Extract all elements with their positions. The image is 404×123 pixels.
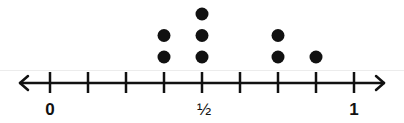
tick-label-half: ½	[197, 100, 211, 120]
tick-label-one: 1	[349, 100, 358, 120]
data-dot	[272, 29, 285, 42]
dots	[158, 8, 323, 64]
tick-label-zero: 0	[45, 100, 54, 120]
data-dot	[196, 51, 209, 64]
data-dot	[196, 29, 209, 42]
data-dot	[158, 51, 171, 64]
data-dot	[310, 51, 323, 64]
data-dot	[158, 29, 171, 42]
data-dot	[272, 51, 285, 64]
data-dot	[196, 8, 209, 21]
